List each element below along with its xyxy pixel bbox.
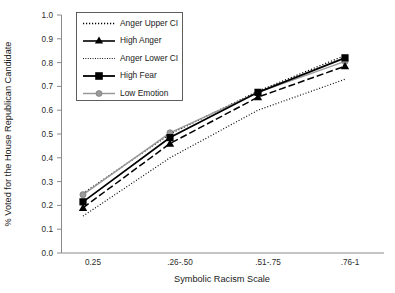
legend-circle-icon xyxy=(96,91,102,97)
y-tick-label: 0.5 xyxy=(42,130,54,139)
y-tick-label: 0.1 xyxy=(42,225,54,234)
chart-legend: Anger Upper CI High Anger Anger Lower CI… xyxy=(77,13,183,101)
x-axis-title: Symbolic Racism Scale xyxy=(174,274,270,284)
legend-label: High Anger xyxy=(120,35,162,45)
data-point-low-emotion xyxy=(80,192,86,198)
x-tick-label: .26-.50 xyxy=(167,258,193,267)
x-tick-label: 0.25 xyxy=(85,258,101,267)
legend-label: High Fear xyxy=(120,70,157,80)
y-axis-ticks: 0.0 0.1 0.2 0.3 0.4 0.5 0.6 0.7 0.8 0.9 … xyxy=(42,11,62,258)
y-tick-label: 0.7 xyxy=(42,82,54,91)
y-axis-title: % Voted for the House Republican Candida… xyxy=(3,42,13,227)
legend-label: Low Emotion xyxy=(120,88,169,98)
chart-container: % Voted for the House Republican Candida… xyxy=(0,0,395,293)
y-tick-label: 0.2 xyxy=(42,201,54,210)
y-tick-label: 0.0 xyxy=(42,249,54,258)
y-tick-label: 0.6 xyxy=(42,106,54,115)
y-tick-label: 0.3 xyxy=(42,178,54,187)
legend-square-icon xyxy=(95,72,103,80)
x-tick-label: .51-.75 xyxy=(255,258,281,267)
x-axis-ticks: 0.25 .26-.50 .51-.75 .76-1 xyxy=(85,258,360,267)
y-tick-label: 0.4 xyxy=(42,154,54,163)
line-chart: % Voted for the House Republican Candida… xyxy=(0,0,395,293)
x-tick-label: .76-1 xyxy=(341,258,360,267)
data-point-high-fear xyxy=(341,54,348,61)
y-tick-label: 1.0 xyxy=(42,11,54,20)
y-tick-label: 0.8 xyxy=(42,59,54,68)
legend-label: Anger Lower CI xyxy=(120,53,178,63)
y-tick-label: 0.9 xyxy=(42,35,54,44)
legend-label: Anger Upper CI xyxy=(120,18,178,28)
